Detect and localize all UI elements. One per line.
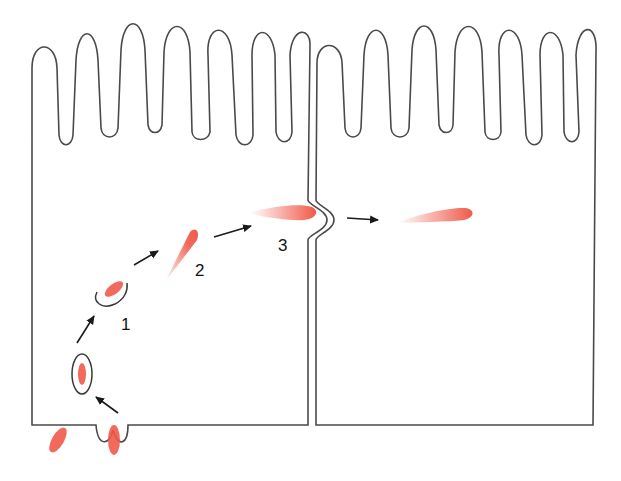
particle-1 bbox=[102, 278, 125, 299]
particle-outside-1 bbox=[46, 425, 70, 455]
particle-2 bbox=[165, 230, 198, 282]
step-label-1: 1 bbox=[121, 315, 130, 334]
arrow-pit-to-vesicle bbox=[96, 397, 118, 413]
arrow-vesicle-to-1 bbox=[77, 316, 94, 343]
particle-transcytosed bbox=[398, 208, 473, 223]
particle-in-pit bbox=[108, 425, 120, 455]
step-label-2: 2 bbox=[195, 261, 204, 280]
left-epithelial-cell bbox=[32, 24, 327, 442]
particle-3 bbox=[250, 205, 316, 220]
transcytosis-diagram: 1 2 3 bbox=[0, 0, 621, 481]
particle-in-vesicle-a bbox=[78, 363, 86, 385]
arrow-2-to-3 bbox=[214, 226, 251, 237]
arrow-1-to-2 bbox=[134, 251, 158, 265]
arrow-3-to-right bbox=[347, 218, 378, 220]
step-label-3: 3 bbox=[278, 236, 287, 255]
particles bbox=[46, 205, 473, 455]
right-epithelial-cell bbox=[316, 26, 596, 425]
